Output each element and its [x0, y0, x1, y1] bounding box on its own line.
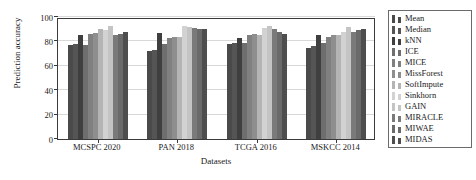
legend-swatch-icon	[392, 59, 401, 67]
y-tick-label: 20	[26, 111, 53, 120]
y-tick-label: 40	[26, 87, 53, 96]
legend: MeanMediankNNICEMICEMissForestSoftImpute…	[388, 10, 472, 148]
legend-item[interactable]: MICE	[392, 57, 468, 68]
plot-area	[57, 18, 375, 140]
legend-swatch-icon	[392, 70, 401, 78]
legend-label: MICE	[405, 58, 426, 67]
y-axis-label: Prediction accuracy	[12, 3, 22, 103]
gridline	[58, 16, 375, 17]
bar-group	[58, 18, 138, 139]
legend-label: kNN	[405, 36, 422, 45]
y-tick-label: 100	[26, 14, 53, 23]
legend-item[interactable]: GAIN	[392, 101, 468, 112]
bar-group	[138, 18, 218, 139]
legend-swatch-icon	[392, 125, 401, 133]
bar[interactable]	[202, 29, 207, 139]
legend-swatch-icon	[392, 81, 401, 89]
bar-group	[297, 18, 377, 139]
bar[interactable]	[361, 29, 366, 139]
legend-item[interactable]: MIDAS	[392, 134, 468, 145]
x-tick-label: MSKCC 2014	[296, 143, 376, 152]
legend-item[interactable]: ICE	[392, 46, 468, 57]
bar[interactable]	[282, 34, 287, 139]
legend-swatch-icon	[392, 114, 401, 122]
legend-label: MIWAE	[405, 124, 434, 133]
legend-item[interactable]: Mean	[392, 13, 468, 24]
y-tick-label: 60	[26, 62, 53, 71]
x-axis-label: Datasets	[57, 156, 375, 166]
legend-item[interactable]: MIWAE	[392, 123, 468, 134]
y-tick-label: 0	[26, 136, 53, 145]
y-tick-label: 80	[26, 38, 53, 47]
legend-label: MissForest	[405, 69, 443, 78]
legend-label: ICE	[405, 47, 419, 56]
y-tick-mark	[54, 16, 58, 17]
bar[interactable]	[123, 32, 128, 139]
legend-swatch-icon	[392, 103, 401, 111]
legend-swatch-icon	[392, 37, 401, 45]
legend-item[interactable]: kNN	[392, 35, 468, 46]
legend-item[interactable]: Sinkhorn	[392, 90, 468, 101]
legend-label: Sinkhorn	[405, 91, 436, 100]
x-tick-label: TCGA 2016	[216, 143, 296, 152]
legend-swatch-icon	[392, 92, 401, 100]
x-tick-label: MCSPC 2020	[57, 143, 137, 152]
legend-item[interactable]: MIRACLE	[392, 112, 468, 123]
legend-label: SoftImpute	[405, 80, 443, 89]
legend-swatch-icon	[392, 48, 401, 56]
legend-swatch-icon	[392, 26, 401, 34]
legend-swatch-icon	[392, 15, 401, 23]
bar-chart-figure: Prediction accuracy 020406080100 MCSPC 2…	[0, 0, 476, 180]
bar-group	[217, 18, 297, 139]
legend-swatch-icon	[392, 136, 401, 144]
legend-label: MIDAS	[405, 135, 432, 144]
x-tick-label: PAN 2018	[137, 143, 217, 152]
legend-item[interactable]: SoftImpute	[392, 79, 468, 90]
legend-label: MIRACLE	[405, 113, 443, 122]
y-axis-tick-labels: 020406080100	[26, 18, 53, 140]
legend-item[interactable]: MissForest	[392, 68, 468, 79]
legend-item[interactable]: Median	[392, 24, 468, 35]
legend-label: Mean	[405, 14, 424, 23]
legend-label: Median	[405, 25, 431, 34]
legend-label: GAIN	[405, 102, 426, 111]
